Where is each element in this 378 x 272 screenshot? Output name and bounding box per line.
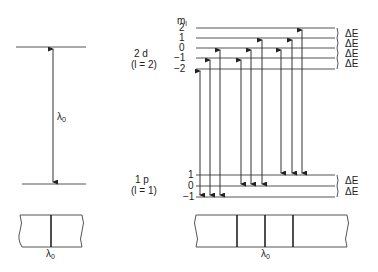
zeeman-diagram: λ0 λ0 ml 2 1 0 −1 −2 2 d (l = 2) 1 0 −1 … xyxy=(0,0,378,272)
ml-label: 0 xyxy=(188,180,194,191)
transition-arrows xyxy=(200,30,302,195)
delta-e-label: ΔE xyxy=(345,186,359,197)
ml-label: −1 xyxy=(183,191,195,202)
upper-state-quantum: (l = 2) xyxy=(131,59,157,70)
delta-e-brackets: ΔE ΔE ΔE ΔE ΔE ΔE xyxy=(337,28,359,197)
upper-state-labels: ml 2 1 0 −1 −2 2 d (l = 2) xyxy=(131,15,187,74)
delta-e-label: ΔE xyxy=(345,175,359,186)
spectrum-label: λ0 xyxy=(261,248,270,260)
break-mark-left xyxy=(195,215,198,247)
transition-label: λ0 xyxy=(57,111,66,123)
upper-level-lines xyxy=(196,28,335,69)
right-spectrum: λ0 xyxy=(195,215,349,260)
spectrum-label: λ0 xyxy=(46,248,55,260)
break-mark-right xyxy=(346,215,349,247)
delta-e-label: ΔE xyxy=(345,58,359,69)
lower-state-name: 1 p xyxy=(135,174,149,185)
break-mark-left xyxy=(19,215,22,247)
ml-label: −2 xyxy=(174,63,186,74)
ml-label: 1 xyxy=(188,169,194,180)
ml-label: −1 xyxy=(174,52,186,63)
lower-state-labels: 1 0 −1 1 p (l = 1) xyxy=(131,169,195,202)
break-mark-right xyxy=(81,215,84,247)
upper-state-name: 2 d xyxy=(134,48,148,59)
left-spectrum: λ0 xyxy=(19,215,84,260)
lower-state-quantum: (l = 1) xyxy=(131,185,157,196)
left-energy-diagram: λ0 xyxy=(16,47,86,184)
lower-level-lines xyxy=(196,175,335,197)
